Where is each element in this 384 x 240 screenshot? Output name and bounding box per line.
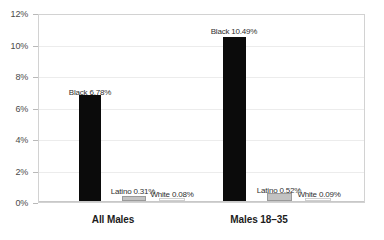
data-label-all-males-black: Black 6.78% — [69, 88, 111, 97]
data-label-all-males-latino: Latino 0.31% — [111, 187, 155, 196]
y-tick-label-0: 0% — [15, 198, 28, 208]
x-category-label-males-18-35: Males 18–35 — [230, 214, 287, 225]
x-axis-baseline — [39, 201, 364, 202]
gridline-8 — [39, 77, 364, 78]
y-tick-label-4: 4% — [15, 135, 28, 145]
x-category-label-all-males: All Males — [92, 214, 134, 225]
bar-all-males-black[interactable] — [79, 95, 101, 201]
data-label-all-males-white: White 0.08% — [150, 190, 193, 199]
plot-area — [38, 14, 365, 203]
y-tick-label-12: 12% — [11, 9, 28, 19]
gridline-10 — [39, 46, 364, 47]
y-tick-label-8: 8% — [15, 72, 28, 82]
y-tick-mark-0 — [33, 203, 38, 204]
data-label-males-18-35-white: White 0.09% — [297, 190, 340, 199]
y-tick-label-10: 10% — [11, 41, 28, 51]
bar-chart: 12% 10% 8% 6% 4% 2% 0% — [0, 0, 384, 240]
y-tick-label-2: 2% — [15, 167, 28, 177]
data-label-males-18-35-latino: Latino 0.52% — [257, 186, 301, 195]
bar-males-18-35-black[interactable] — [223, 37, 246, 201]
y-tick-label-6: 6% — [15, 104, 28, 114]
y-axis: 12% 10% 8% 6% 4% 2% 0% — [0, 14, 33, 203]
data-label-males-18-35-black: Black 10.49% — [211, 27, 258, 36]
bar-all-males-latino[interactable] — [122, 196, 146, 201]
